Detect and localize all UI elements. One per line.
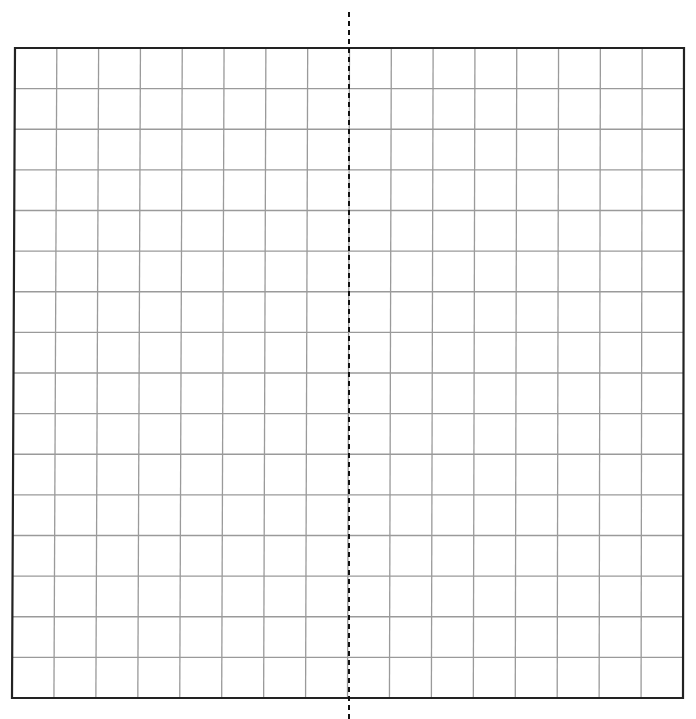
diagram-canvas bbox=[0, 0, 696, 719]
square-grid bbox=[0, 0, 696, 719]
